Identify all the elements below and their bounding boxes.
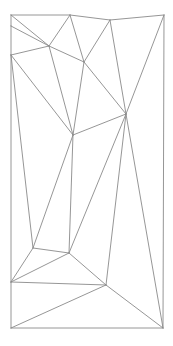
edge-B-C xyxy=(70,15,110,20)
edge-N-P xyxy=(106,285,163,328)
edge-B-H xyxy=(70,15,84,62)
edge-E-F xyxy=(11,26,49,46)
edge-G-F xyxy=(11,46,49,55)
edge-G-J xyxy=(11,55,73,135)
edge-F-J xyxy=(49,46,73,135)
edge-I-N xyxy=(106,114,126,285)
edge-O-N xyxy=(11,285,106,328)
triangulation-svg xyxy=(0,0,173,346)
edge-I-P xyxy=(126,114,163,328)
edge-D-P xyxy=(163,15,164,328)
edge-H-I xyxy=(84,62,126,114)
edge-C-D xyxy=(110,15,164,20)
edge-L-N xyxy=(69,253,106,285)
triangulation-diagram xyxy=(0,0,173,346)
edge-M-N xyxy=(11,282,106,285)
edge-A-F xyxy=(11,15,49,46)
edge-K-L xyxy=(33,248,69,253)
edge-C-I xyxy=(110,20,126,114)
edge-J-I xyxy=(73,114,126,135)
edge-F-H xyxy=(49,46,84,62)
edge-J-K xyxy=(33,135,73,248)
edge-J-L xyxy=(69,135,73,253)
edge-H-J xyxy=(73,62,84,135)
edge-D-I xyxy=(126,15,164,114)
edge-G-K xyxy=(11,55,33,248)
edge-group xyxy=(11,15,164,328)
edge-C-H xyxy=(84,20,110,62)
edge-L-M xyxy=(11,253,69,282)
edge-B-F xyxy=(49,15,70,46)
